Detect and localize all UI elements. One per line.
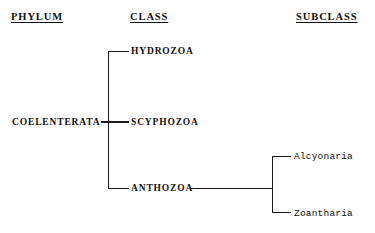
column-header-phylum: PHYLUM [11,11,63,22]
connector-class-bracket-spine [108,51,109,189]
connector-stub-scyphozoa [108,121,129,122]
taxon-label-hydrozoa: HYDROZOA [131,46,194,56]
column-header-class: CLASS [130,11,168,22]
taxonomy-diagram: PHYLUM CLASS SUBCLASS COELENTERATA HYDRO… [0,0,375,233]
connector-stub-zoantharia [272,212,291,213]
connector-stub-alcyonaria [272,156,291,157]
connector-anthozoa-to-subclass [190,188,273,189]
taxon-label-scyphozoa: SCYPHOZOA [131,117,199,127]
taxon-label-coelenterata: COELENTERATA [12,117,101,127]
taxon-label-anthozoa: ANTHOZOA [131,183,193,193]
taxon-label-alcyonaria: Alcyonaria [294,151,353,162]
taxon-label-zoantharia: Zoantharia [294,208,353,219]
connector-subclass-bracket-spine [272,156,273,213]
connector-stub-anthozoa [108,188,129,189]
column-header-subclass: SUBCLASS [296,11,357,22]
connector-stub-hydrozoa [108,51,129,52]
